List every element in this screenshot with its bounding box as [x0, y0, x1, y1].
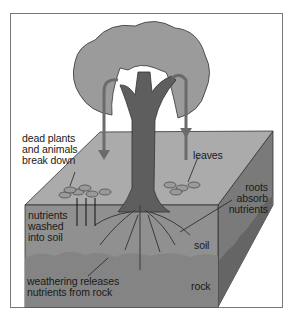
label-leaves: leaves: [193, 150, 223, 161]
label-rock: rock: [191, 281, 210, 292]
label-nutrients-washed: nutrients washed into soil: [28, 210, 67, 243]
label-weathering: weathering releases nutrients from rock: [27, 276, 119, 298]
label-roots-absorb: roots absorb nutrients: [222, 182, 268, 215]
label-soil: soil: [194, 240, 209, 251]
label-dead-plants: dead plants and animals break down: [22, 133, 78, 166]
